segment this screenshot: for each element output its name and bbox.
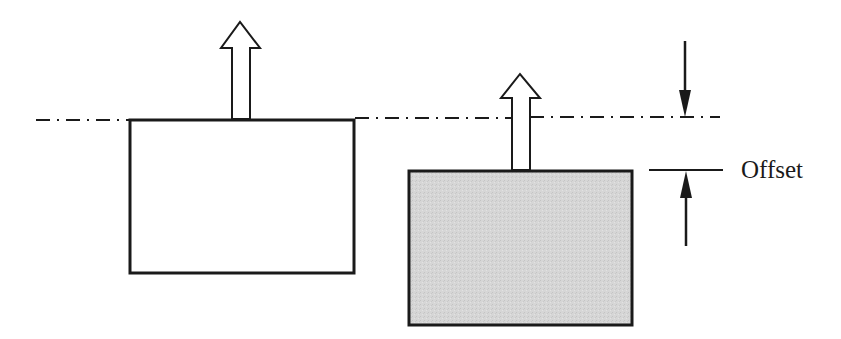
- dimension-arrow-up-icon: [680, 171, 692, 246]
- unshifted-box: [130, 120, 354, 273]
- offset-diagram: Offset: [0, 0, 841, 339]
- diagram-svg: [0, 0, 841, 339]
- offset-box: [409, 171, 632, 325]
- up-arrow-icon: [501, 74, 540, 170]
- offset-label: Offset: [741, 156, 803, 184]
- up-arrow-icon: [221, 22, 260, 119]
- dimension-arrow-down-icon: [679, 41, 691, 117]
